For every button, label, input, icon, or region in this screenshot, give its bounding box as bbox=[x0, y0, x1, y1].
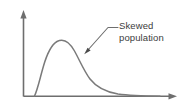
skewed-population-curve bbox=[35, 40, 161, 96]
annotation-text-skewed-population: Skewed population bbox=[119, 20, 183, 43]
y-axis-arrow-icon bbox=[20, 10, 26, 19]
skewed-population-figure: Skewed population bbox=[0, 0, 186, 109]
x-axis-arrow-icon bbox=[169, 93, 178, 99]
chart-canvas bbox=[0, 0, 186, 109]
annotation-leader-line bbox=[88, 28, 119, 51]
